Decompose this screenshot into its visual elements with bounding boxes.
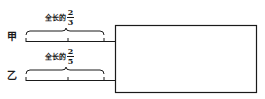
- annotation-prefix: 全长的: [45, 12, 66, 22]
- fraction-numerator: 2: [68, 47, 74, 55]
- brace-yi: [26, 67, 104, 74]
- diagram-canvas: [0, 0, 265, 99]
- fraction: 2 5: [67, 47, 74, 65]
- fraction-denominator: 5: [68, 57, 74, 65]
- rectangle-box: [116, 26, 257, 93]
- row-label-jia: 甲: [7, 32, 17, 42]
- brace-jia: [26, 28, 104, 35]
- fraction-numerator: 2: [68, 8, 74, 16]
- fraction-denominator: 3: [68, 18, 74, 26]
- fraction: 2 3: [67, 8, 74, 26]
- row-yi-segment: [26, 77, 116, 81]
- row-jia-segment: [26, 38, 116, 42]
- annotation-prefix: 全长的: [45, 51, 66, 61]
- row-label-yi: 乙: [7, 71, 17, 81]
- annotation-yi: 全长的 2 5: [45, 47, 74, 65]
- annotation-jia: 全长的 2 3: [45, 8, 74, 26]
